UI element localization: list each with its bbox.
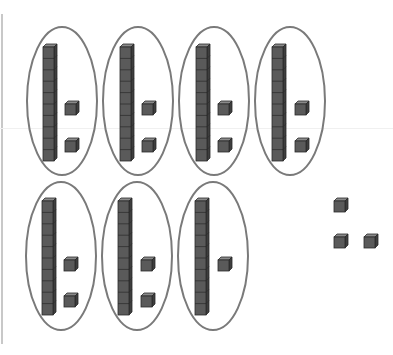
unit-cube	[141, 293, 155, 307]
group-ellipse	[178, 182, 248, 330]
loose-unit-cube	[334, 198, 348, 212]
unit-cube	[64, 293, 78, 307]
ten-group-5	[26, 182, 96, 330]
unit-cube	[65, 138, 79, 152]
ten-group-6	[102, 182, 172, 330]
ten-rod	[118, 198, 132, 315]
group-ellipse	[103, 27, 173, 175]
unit-cube	[218, 101, 232, 115]
group-ellipse	[27, 27, 97, 175]
ten-group-3	[179, 27, 249, 175]
group-ellipse	[26, 182, 96, 330]
unit-cube	[142, 138, 156, 152]
base-ten-diagram	[0, 0, 393, 355]
group-ellipse	[179, 27, 249, 175]
unit-cube	[218, 138, 232, 152]
ten-rod	[195, 198, 209, 315]
ten-rod	[43, 44, 57, 161]
unit-cube	[295, 101, 309, 115]
group-ellipse	[102, 182, 172, 330]
unit-cube	[142, 101, 156, 115]
ten-group-7	[178, 182, 248, 330]
ten-group-4	[255, 27, 325, 175]
ten-rod	[196, 44, 210, 161]
ten-rod	[272, 44, 286, 161]
ten-group-2	[103, 27, 173, 175]
unit-cube	[218, 257, 232, 271]
unit-cube	[141, 257, 155, 271]
loose-unit-cube	[334, 234, 348, 248]
ten-group-1	[27, 27, 97, 175]
group-ellipse	[255, 27, 325, 175]
loose-unit-cube	[364, 234, 378, 248]
unit-cube	[64, 257, 78, 271]
loose-ones	[334, 198, 378, 248]
unit-cube	[295, 138, 309, 152]
blocks-canvas	[0, 0, 393, 355]
unit-cube	[65, 101, 79, 115]
ten-rod	[42, 198, 56, 315]
ten-rod	[120, 44, 134, 161]
